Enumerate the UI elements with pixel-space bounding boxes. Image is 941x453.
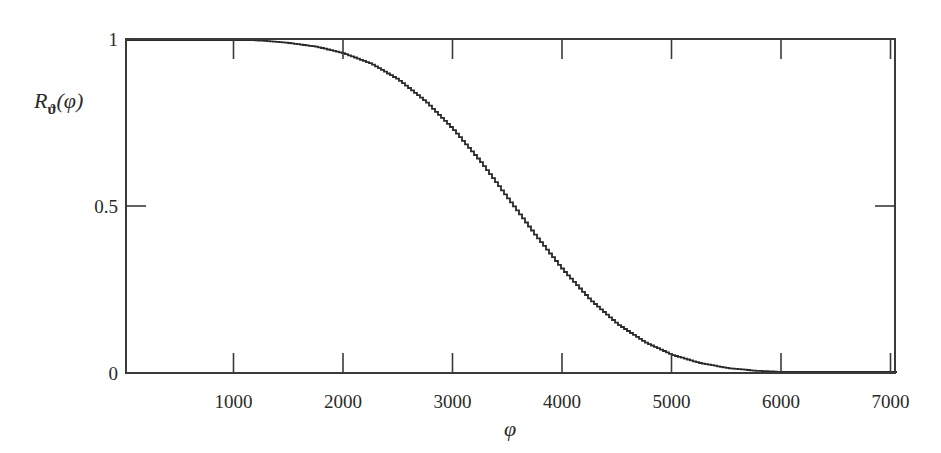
y-axis-title-argument: (φ) <box>56 88 83 113</box>
reliability-chart: 1000200030004000500060007000 00.51 φ Rϑ(… <box>0 0 941 453</box>
y-axis-ticks: 00.51 <box>94 29 895 384</box>
y-tick-label: 0 <box>109 363 119 384</box>
x-tick-label: 4000 <box>543 391 581 412</box>
x-axis-title: φ <box>504 416 516 441</box>
x-tick-label: 7000 <box>872 391 910 412</box>
plot-frame <box>126 39 895 373</box>
y-tick-label: 1 <box>109 29 119 50</box>
x-tick-label: 1000 <box>215 391 253 412</box>
reliability-curve <box>126 40 897 372</box>
x-tick-label: 6000 <box>762 391 800 412</box>
y-tick-label: 0.5 <box>94 196 118 217</box>
y-axis-title-main: R <box>33 88 48 113</box>
series-line <box>126 40 897 372</box>
y-axis-title: Rϑ(φ) <box>33 88 83 117</box>
x-tick-label: 2000 <box>324 391 362 412</box>
y-axis-title-subscript: ϑ <box>47 101 56 117</box>
x-axis-ticks: 1000200030004000500060007000 <box>215 39 910 412</box>
x-tick-label: 3000 <box>434 391 472 412</box>
x-tick-label: 5000 <box>653 391 691 412</box>
